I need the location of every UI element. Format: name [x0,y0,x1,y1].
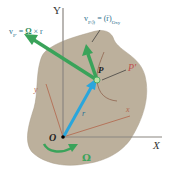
origin-label: O [49,133,56,143]
origin-marker [61,135,65,139]
Y-axis-label: Y [53,5,61,16]
point-P-marker [94,77,100,83]
omega-label: Ω [82,153,91,163]
v-relative-label: vP/𝔉 = (ṙ)Oxy [84,15,120,25]
point-P-label: P [98,66,104,75]
moving-x-label: x [126,106,130,114]
moving-y-label: y [34,86,38,94]
r-vector-label: r [82,110,85,118]
v-transport-label: vP' = Ω × r [9,28,43,38]
X-axis-label: X [153,140,160,151]
point-P-prime-label: P' [128,63,136,73]
